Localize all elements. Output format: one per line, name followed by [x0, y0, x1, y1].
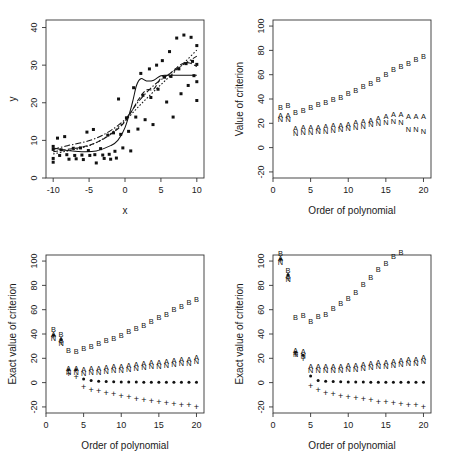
data-marker-plus: + [149, 396, 154, 406]
data-marker-plus: + [111, 389, 116, 399]
data-marker-star [399, 381, 402, 384]
data-marker-b: B [331, 95, 336, 104]
data-marker-plus: + [293, 350, 298, 360]
y-tick-label: 0 [256, 145, 266, 150]
data-marker-n: N [391, 361, 396, 370]
x-tick-label: 5 [81, 420, 86, 430]
data-marker-n: N [323, 366, 328, 375]
data-marker-plus: + [164, 398, 169, 408]
data-marker-n: N [421, 127, 426, 136]
x-axis-title: x [123, 205, 128, 216]
data-marker-n: N [331, 126, 336, 135]
data-marker-n: N [300, 128, 305, 137]
data-marker-star [97, 380, 100, 383]
scatter-point [165, 101, 168, 104]
data-marker-n: N [119, 366, 124, 375]
data-marker-plus: + [171, 399, 176, 409]
data-marker-b: B [126, 327, 131, 336]
data-marker-plus: + [66, 369, 71, 379]
scatter-point [152, 123, 155, 126]
data-marker-b: B [391, 65, 396, 74]
data-marker-n: N [171, 360, 176, 369]
x-tick-label: 5 [308, 185, 313, 195]
fitted-curve-solid [53, 75, 197, 152]
data-marker-b: B [346, 89, 351, 98]
scatter-point [101, 154, 104, 157]
data-marker-b: B [308, 317, 313, 326]
data-marker-b: B [338, 93, 343, 102]
data-marker-n: N [285, 115, 290, 124]
data-marker-n: N [346, 365, 351, 374]
scatter-point [127, 130, 130, 133]
y-tick-label: 80 [29, 280, 39, 290]
y-tick-label: 0 [29, 380, 39, 385]
data-marker-b: B [74, 347, 79, 356]
scatter-point [191, 60, 194, 63]
data-marker-b: B [398, 62, 403, 71]
data-marker-n: N [111, 366, 116, 375]
scatter-point [144, 118, 147, 121]
data-marker-b: B [293, 313, 298, 322]
scatter-point [132, 86, 135, 89]
scatter-point [73, 154, 76, 157]
x-tick-label: 15 [381, 420, 391, 430]
data-marker-b: B [421, 52, 426, 61]
panel-top-right-canvas: 05101520-20020406080100Order of polynomi… [227, 0, 453, 235]
data-marker-plus: + [134, 394, 139, 404]
scatter-point [148, 67, 151, 70]
y-tick-label: -20 [256, 165, 266, 178]
data-marker-n: N [315, 127, 320, 136]
scatter-point [136, 128, 139, 131]
x-axis-title: Order of polynomial [308, 205, 395, 216]
y-tick-label: 80 [256, 280, 266, 290]
data-marker-star [347, 380, 350, 383]
data-marker-b: B [141, 321, 146, 330]
scatter-point [103, 157, 106, 160]
x-tick-label: -5 [85, 185, 93, 195]
x-tick-label: 10 [116, 420, 126, 430]
x-tick-label: 10 [343, 185, 353, 195]
data-marker-b: B [81, 344, 86, 353]
data-marker-n: N [368, 120, 373, 129]
y-tick-label: 80 [256, 45, 266, 55]
y-tick-label: 20 [29, 98, 39, 108]
data-marker-b: B [286, 101, 291, 110]
panel-bottom-right-canvas: 05101520-20020406080100Order of polynomi… [227, 235, 453, 470]
data-marker-b: B [301, 106, 306, 115]
data-marker-n: N [406, 125, 411, 134]
data-marker-n: N [308, 366, 313, 375]
y-tick-label: 40 [29, 23, 39, 33]
panel-top-left-scatter: -10-50510010203040xy [0, 0, 226, 235]
data-marker-n: N [134, 364, 139, 373]
data-marker-n: N [156, 362, 161, 371]
y-tick-label: -20 [29, 400, 39, 413]
scatter-point [161, 59, 164, 62]
data-marker-b: B [413, 55, 418, 64]
data-marker-plus: + [376, 397, 381, 407]
data-marker-b: B [171, 305, 176, 314]
data-marker-plus: + [73, 372, 78, 382]
data-marker-b: B [383, 70, 388, 79]
data-marker-b: B [346, 294, 351, 303]
x-tick-label: 10 [343, 420, 353, 430]
y-tick-label: 20 [256, 118, 266, 128]
x-tick-label: 5 [308, 420, 313, 430]
data-marker-star [414, 381, 417, 384]
fitted-curve-dotted [53, 50, 197, 154]
data-marker-b: B [323, 310, 328, 319]
y-axis-title: Exact value of criterion [7, 283, 18, 384]
x-tick-label: 0 [270, 420, 275, 430]
data-marker-star [187, 381, 190, 384]
data-marker-plus: + [383, 397, 388, 407]
scatter-point [172, 116, 175, 119]
data-marker-a: A [421, 112, 426, 121]
data-marker-star [157, 381, 160, 384]
scatter-point [56, 137, 59, 140]
data-marker-n: N [383, 362, 388, 371]
data-marker-plus: + [338, 391, 343, 401]
y-tick-label: 20 [29, 353, 39, 363]
data-marker-n: N [149, 362, 154, 371]
scatter-point [187, 84, 190, 87]
data-marker-plus: + [89, 385, 94, 395]
data-marker-star [172, 381, 175, 384]
